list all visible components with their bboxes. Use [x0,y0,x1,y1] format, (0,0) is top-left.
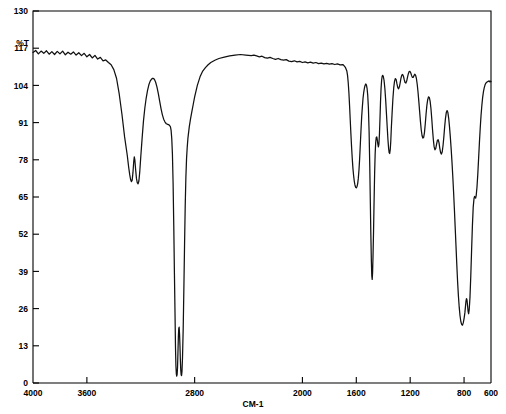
x-tick-label: 1600 [347,388,366,398]
spectrum-plot-area: 013263952657891104117130 400036002800200… [0,0,506,414]
x-tick-label: 1200 [401,388,420,398]
y-tick-label: 91 [19,118,29,128]
x-tick-label: 3600 [77,388,96,398]
y-axis-tick-labels: 013263952657891104117130 [14,6,28,388]
y-axis-ticks [33,11,39,383]
y-tick-label: 104 [14,81,28,91]
y-tick-label: 26 [19,304,29,314]
y-tick-label: 13 [19,341,29,351]
x-axis-ticks [87,377,464,383]
ir-spectrum-chart: 013263952657891104117130 400036002800200… [0,0,506,414]
x-tick-label: 600 [484,388,498,398]
y-tick-label: 39 [19,267,29,277]
x-axis-title: CM-1 [243,399,264,409]
x-tick-label: 2800 [185,388,204,398]
x-tick-label: 2000 [293,388,312,398]
y-tick-label: 0 [23,378,28,388]
spectrum-trace [33,50,491,376]
y-axis-title: %T [16,38,30,48]
y-tick-label: 78 [19,155,29,165]
x-tick-label: 800 [457,388,471,398]
x-tick-label: 4000 [24,388,43,398]
y-tick-label: 130 [14,6,28,16]
y-tick-label: 52 [19,229,29,239]
y-tick-label: 65 [19,192,29,202]
x-axis-tick-labels: 400036002800200016001200800600 [24,388,499,398]
plot-frame [33,11,491,383]
